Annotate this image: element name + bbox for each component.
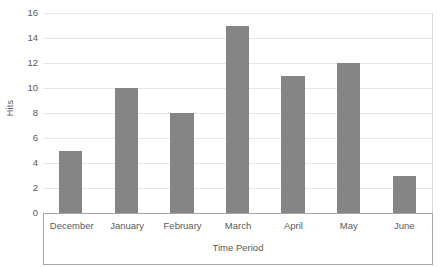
plot-area bbox=[43, 13, 433, 213]
bars-layer bbox=[43, 13, 432, 213]
y-axis-tick-label: 10 bbox=[27, 83, 38, 93]
bar-slot bbox=[265, 13, 321, 213]
x-axis-tick-label: March bbox=[210, 213, 265, 237]
x-axis-tick-label: February bbox=[155, 213, 210, 237]
bar-chart: Hits 0246810121416 DecemberJanuaryFebrua… bbox=[0, 0, 443, 267]
bar-slot bbox=[99, 13, 155, 213]
x-axis-tick-label: May bbox=[321, 213, 376, 237]
bar-slot bbox=[154, 13, 210, 213]
y-axis-tick-label: 4 bbox=[33, 158, 38, 168]
y-axis-tick-label: 0 bbox=[33, 208, 38, 218]
x-axis-title: Time Period bbox=[44, 237, 432, 257]
x-axis-tick-label: June bbox=[377, 213, 432, 237]
y-axis-title: Hits bbox=[2, 0, 18, 215]
x-axis-tick-label: April bbox=[266, 213, 321, 237]
bar[interactable] bbox=[393, 176, 416, 214]
bar-slot bbox=[43, 13, 99, 213]
y-axis-tick-label: 16 bbox=[27, 8, 38, 18]
bar-slot bbox=[321, 13, 377, 213]
bar[interactable] bbox=[337, 63, 360, 213]
bar[interactable] bbox=[170, 113, 193, 213]
bar[interactable] bbox=[226, 26, 249, 214]
x-axis-tick-label: December bbox=[44, 213, 99, 237]
y-axis-tick-label: 12 bbox=[27, 58, 38, 68]
bar[interactable] bbox=[115, 88, 138, 213]
bar-slot bbox=[376, 13, 432, 213]
x-axis-tick-label: January bbox=[99, 213, 154, 237]
bar[interactable] bbox=[59, 151, 82, 214]
y-axis-tick-label: 6 bbox=[33, 133, 38, 143]
y-axis-tick-label: 8 bbox=[33, 108, 38, 118]
x-axis-tick-labels: DecemberJanuaryFebruaryMarchAprilMayJune bbox=[44, 213, 432, 237]
bar[interactable] bbox=[281, 76, 304, 214]
y-axis-title-text: Hits bbox=[5, 99, 15, 115]
bar-slot bbox=[210, 13, 266, 213]
y-axis-tick-label: 14 bbox=[27, 33, 38, 43]
y-axis-tick-label: 2 bbox=[33, 183, 38, 193]
category-label-box: DecemberJanuaryFebruaryMarchAprilMayJune… bbox=[43, 213, 433, 265]
y-axis-tick-labels: 0246810121416 bbox=[18, 13, 38, 213]
